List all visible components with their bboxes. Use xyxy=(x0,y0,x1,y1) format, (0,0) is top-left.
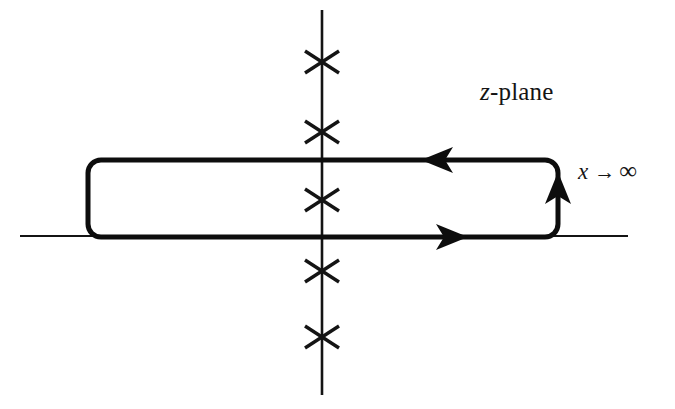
contour-diagram-svg xyxy=(0,0,675,409)
right-arrow-icon: → xyxy=(590,160,619,184)
z-plane-label: z-plane xyxy=(480,79,554,104)
z-plane-suffix: -plane xyxy=(490,78,554,105)
limit-variable: x xyxy=(578,159,590,184)
integration-contour xyxy=(88,147,571,250)
x-to-infinity-label: x→∞ xyxy=(578,158,637,183)
infinity-symbol: ∞ xyxy=(619,157,637,184)
z-plane-variable: z xyxy=(480,78,490,105)
figure-canvas: z-plane x→∞ xyxy=(0,0,675,409)
